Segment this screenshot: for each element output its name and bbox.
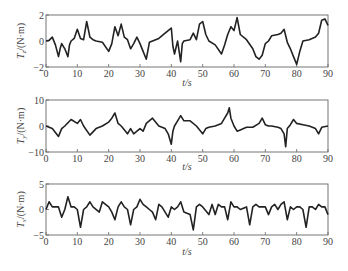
x-tick-label: 60 — [229, 236, 239, 247]
y-tick-label: 0 — [39, 204, 44, 215]
x-tick-label: 30 — [135, 68, 145, 79]
x-tick-label: 50 — [198, 153, 208, 164]
x-tick-label: 70 — [260, 236, 270, 247]
y-tick-label: 5 — [39, 179, 44, 190]
x-tick-label: 60 — [229, 153, 239, 164]
x-tick-label: 40 — [166, 236, 176, 247]
data-series-line — [46, 108, 328, 147]
x-axis-label: t/s — [182, 161, 192, 172]
x-tick-label: 30 — [135, 236, 145, 247]
x-tick-label: 90 — [323, 153, 333, 164]
y-tick-label: 2 — [39, 10, 44, 21]
x-tick-label: 20 — [104, 153, 114, 164]
x-tick-label: 70 — [260, 68, 270, 79]
y-tick-label: −2 — [33, 62, 44, 73]
x-axis-label: t/s — [182, 77, 192, 88]
data-series-line — [46, 197, 328, 230]
x-tick-label: 20 — [104, 68, 114, 79]
y-axis-label: Tz/(N·m) — [15, 23, 28, 59]
x-tick-label: 80 — [292, 68, 302, 79]
x-tick-label: 0 — [44, 153, 49, 164]
x-tick-label: 80 — [292, 236, 302, 247]
x-tick-label: 90 — [323, 68, 333, 79]
y-tick-label: −5 — [33, 230, 44, 241]
x-tick-label: 0 — [44, 236, 49, 247]
x-tick-label: 40 — [166, 68, 176, 79]
y-tick-label: 0 — [39, 121, 44, 132]
x-tick-label: 40 — [166, 153, 176, 164]
x-tick-label: 50 — [198, 68, 208, 79]
y-axis-label: Tx/(N·m) — [15, 191, 28, 227]
y-axis-label: Ty/(N·m) — [15, 108, 28, 144]
chart-panel-1: 0102030405060708090−202t/sTz/(N·m) — [15, 10, 333, 89]
x-tick-label: 0 — [44, 68, 49, 79]
x-tick-label: 50 — [198, 236, 208, 247]
y-tick-label: −10 — [28, 147, 44, 158]
y-tick-label: 0 — [39, 36, 44, 47]
x-tick-label: 80 — [292, 153, 302, 164]
x-tick-label: 20 — [104, 236, 114, 247]
x-tick-label: 30 — [135, 153, 145, 164]
y-tick-label: 10 — [34, 95, 44, 106]
x-axis-label: t/s — [182, 246, 192, 257]
data-series-line — [46, 18, 328, 65]
x-tick-label: 10 — [72, 236, 82, 247]
chart-figure: 0102030405060708090−202t/sTz/(N·m)010203… — [0, 0, 348, 271]
x-tick-label: 70 — [260, 153, 270, 164]
x-tick-label: 10 — [72, 153, 82, 164]
x-tick-label: 10 — [72, 68, 82, 79]
chart-panel-3: 0102030405060708090−505t/sTx/(N·m) — [15, 179, 333, 258]
x-tick-label: 60 — [229, 68, 239, 79]
chart-panel-2: 0102030405060708090−10010t/sTy/(N·m) — [15, 95, 333, 173]
x-tick-label: 90 — [323, 236, 333, 247]
